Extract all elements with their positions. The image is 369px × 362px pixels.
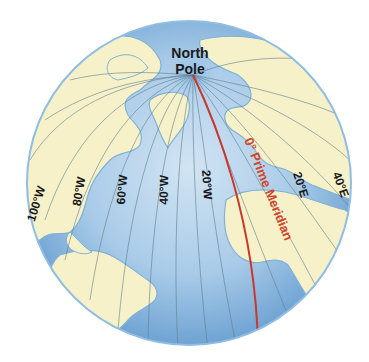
meridian-label-40w: 40°W bbox=[157, 174, 172, 204]
north-pole-label-line2: Pole bbox=[175, 61, 205, 77]
meridian-label-60w: 60°W bbox=[114, 174, 131, 205]
meridian-label-20w: 20°W bbox=[199, 170, 215, 201]
globe-diagram: North Pole 100°W 80°W 60°W 40°W 20°W 20°… bbox=[0, 0, 369, 362]
north-pole-label-line1: North bbox=[171, 45, 208, 61]
